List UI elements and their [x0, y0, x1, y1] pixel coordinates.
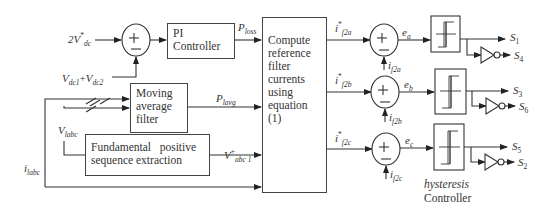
vdc-ref-label: 2V*dc: [68, 33, 91, 45]
ilabc-label: ilabc: [24, 162, 40, 174]
error-c-label: ec: [405, 134, 413, 146]
vlabc-label: Vlabc: [58, 124, 78, 136]
summing-junction-b: [371, 76, 399, 108]
moving-average-label: Moving average filter: [136, 87, 172, 125]
feedback-c-label: if2c: [390, 168, 402, 180]
vabc1-label: V+abc 1: [224, 149, 251, 161]
ref-current-c-label: i*f2c: [335, 132, 351, 144]
output-s2-label: S2: [518, 156, 527, 168]
output-s5-label: S5: [512, 140, 521, 152]
ref-current-b-label: i*f2b: [335, 74, 351, 86]
output-s1-label: S1: [510, 31, 519, 43]
fundamental-label: Fundamental positive sequence extraction: [91, 141, 199, 166]
summing-junction-c: [372, 133, 400, 165]
vdc-meas-label: Vdc1+Vdc2: [62, 72, 103, 84]
feedback-a-label: if2a: [388, 59, 401, 71]
error-a-label: ea: [402, 26, 411, 38]
plavg-label: Plavg: [216, 92, 236, 104]
ref-current-a-label: i*f2a: [335, 22, 351, 34]
pi-controller-label: PI Controller: [173, 27, 220, 52]
feedback-b-label: if2b: [389, 111, 402, 123]
output-s6-label: S6: [519, 100, 528, 112]
moving-average-filter-block: Moving average filter: [130, 83, 188, 133]
fundamental-positive-sequence-block: Fundamental positive sequence extraction: [85, 134, 210, 176]
compute-reference-block: Compute reference filter currents using …: [262, 17, 327, 193]
controller-label: Controller: [424, 192, 471, 204]
hysteresis-label: hysteresis: [424, 178, 469, 190]
output-s3-label: S3: [513, 84, 522, 96]
summing-junction-dc: [122, 24, 150, 56]
ploss-label: Ploss: [238, 21, 256, 33]
error-b-label: eb: [404, 78, 413, 90]
summing-junction-a: [370, 24, 398, 56]
pi-controller-block: PI Controller: [167, 23, 235, 59]
output-s4-label: S4: [514, 49, 523, 61]
compute-label: Compute reference filter currents using …: [268, 34, 311, 124]
